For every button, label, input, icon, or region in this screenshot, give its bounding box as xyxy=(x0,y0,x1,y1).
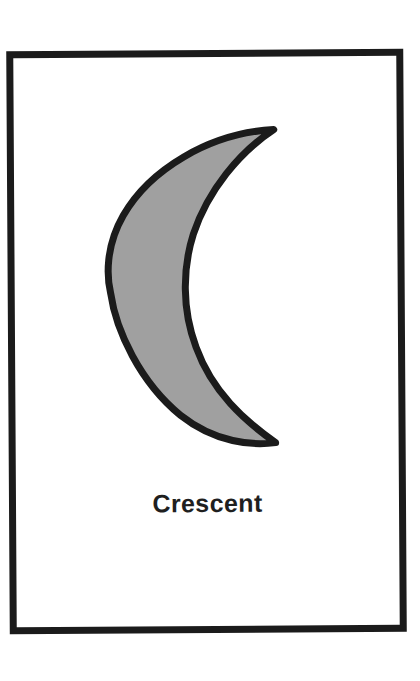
shape-label: Crescent xyxy=(9,487,406,519)
scanned-ink-layer: Crescent xyxy=(0,0,420,681)
shape-illustration xyxy=(0,0,420,681)
worksheet-card: Crescent xyxy=(0,0,420,681)
crescent-shape-path xyxy=(107,130,275,445)
crescent-icon xyxy=(0,0,420,681)
